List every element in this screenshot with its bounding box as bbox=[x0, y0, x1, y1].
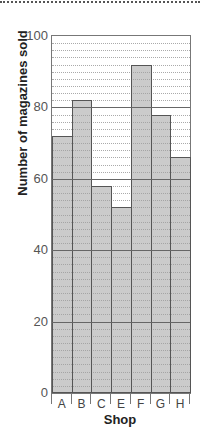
y-tick-label: 0 bbox=[41, 385, 48, 400]
bar-F bbox=[131, 65, 152, 393]
minor-gridline bbox=[52, 93, 190, 94]
bar-A bbox=[52, 136, 73, 393]
x-tick-mark bbox=[71, 392, 72, 404]
x-tick-mark bbox=[51, 392, 52, 404]
x-tick-label: G bbox=[156, 397, 165, 411]
minor-gridline bbox=[52, 86, 190, 87]
x-tick-label: A bbox=[58, 397, 66, 411]
minor-gridline bbox=[52, 50, 190, 51]
x-tick-mark bbox=[90, 392, 91, 404]
y-tick-label: 100 bbox=[26, 28, 48, 43]
y-axis-title: Number of magazines sold bbox=[15, 30, 30, 195]
y-tick-label: 40 bbox=[34, 242, 48, 257]
x-tick-label: B bbox=[78, 397, 86, 411]
bar-H bbox=[170, 157, 191, 393]
y-tick-label: 60 bbox=[34, 170, 48, 185]
x-tick-label: C bbox=[97, 397, 106, 411]
y-tick-label: 20 bbox=[34, 313, 48, 328]
minor-gridline bbox=[52, 72, 190, 73]
minor-gridline bbox=[52, 43, 190, 44]
plot-area bbox=[51, 35, 191, 394]
x-tick-mark bbox=[150, 392, 151, 404]
x-tick-mark bbox=[189, 392, 190, 404]
y-tick-label: 80 bbox=[34, 99, 48, 114]
x-tick-mark bbox=[130, 392, 131, 404]
major-gridline bbox=[52, 179, 190, 180]
top-dotted-rule bbox=[0, 1, 200, 3]
major-gridline bbox=[52, 107, 190, 108]
bar-E bbox=[111, 207, 132, 393]
x-axis-title: Shop bbox=[104, 412, 137, 427]
x-tick-label: F bbox=[137, 397, 144, 411]
bar-C bbox=[91, 186, 112, 393]
minor-gridline bbox=[52, 57, 190, 58]
major-gridline bbox=[52, 322, 190, 323]
x-tick-mark bbox=[169, 392, 170, 404]
minor-gridline bbox=[52, 79, 190, 80]
major-gridline bbox=[52, 250, 190, 251]
x-tick-label: H bbox=[176, 397, 185, 411]
x-tick-mark bbox=[110, 392, 111, 404]
x-tick-label: E bbox=[117, 397, 125, 411]
bar-G bbox=[151, 115, 172, 393]
minor-gridline bbox=[52, 65, 190, 66]
bar-B bbox=[72, 100, 93, 393]
